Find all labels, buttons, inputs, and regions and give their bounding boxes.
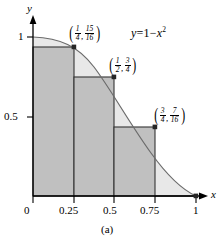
y-tick-label-1: 1 <box>18 31 24 42</box>
x-tick-label-0: 0 <box>24 205 30 216</box>
equation-minus: − <box>150 26 157 40</box>
fraction-denominator: 2 <box>115 65 121 74</box>
x-axis-label: x <box>211 189 216 200</box>
fraction-numerator: 7 <box>172 107 178 115</box>
equation-exponent: 2 <box>162 25 166 34</box>
riemann-sum-figure: y x 1 0.5 0 0.25 0.5 0.75 1 y=1−x2 ( 1 4… <box>0 0 221 248</box>
fraction-x-2: 1 2 <box>115 57 121 73</box>
right-paren-icon: ) <box>181 107 185 123</box>
curve-equation: y=1−x2 <box>131 26 166 39</box>
marked-point-4 <box>194 194 199 199</box>
fraction-y-1: 15 16 <box>85 25 95 41</box>
x-tick-label-0point75: 0.75 <box>140 205 159 216</box>
rectangle-1 <box>33 47 74 196</box>
x-tick-label-0point5: 0.5 <box>103 205 117 216</box>
coordinate-comma: , <box>121 64 124 73</box>
coordinate-pair-3: ( 3 4 , 7 16 ) <box>153 107 186 123</box>
coordinate-pair-1: ( 1 4 , 15 16 ) <box>68 25 101 41</box>
marked-point-1 <box>72 45 77 50</box>
right-paren-icon: ) <box>96 25 100 41</box>
fraction-y-3: 7 16 <box>170 107 180 123</box>
fraction-denominator: 4 <box>160 115 166 124</box>
fraction-numerator: 1 <box>75 25 81 33</box>
rectangle-3 <box>114 127 155 196</box>
coordinate-comma: , <box>81 32 84 41</box>
marked-point-3 <box>153 125 158 130</box>
left-paren-icon: ( <box>69 25 73 41</box>
coordinate-comma: , <box>166 114 169 123</box>
fraction-denominator: 16 <box>170 115 180 124</box>
fraction-y-2: 3 4 <box>125 57 131 73</box>
x-tick-label-0point25: 0.25 <box>59 205 78 216</box>
left-paren-icon: ( <box>154 107 158 123</box>
rectangle-2 <box>74 77 114 196</box>
figure-caption: (a) <box>101 224 113 235</box>
fraction-denominator: 4 <box>125 65 131 74</box>
x-tick-label-1: 1 <box>193 205 199 216</box>
x-axis-arrowhead <box>199 193 208 200</box>
fraction-numerator: 15 <box>85 25 95 33</box>
coordinate-pair-2: ( 1 2 , 3 4 ) <box>108 57 137 73</box>
left-paren-icon: ( <box>109 57 113 73</box>
marked-point-2 <box>112 75 117 80</box>
fraction-numerator: 1 <box>115 57 121 65</box>
fraction-x-3: 3 4 <box>160 107 166 123</box>
fraction-x-1: 1 4 <box>75 25 81 41</box>
point-label-2: ( 1 2 , 3 4 ) <box>108 57 137 73</box>
point-label-1: ( 1 4 , 15 16 ) <box>68 25 101 41</box>
equation-equals: = <box>137 26 144 40</box>
point-label-3: ( 3 4 , 7 16 ) <box>153 107 186 123</box>
right-paren-icon: ) <box>132 57 136 73</box>
y-tick-label-0point5: 0.5 <box>4 111 18 122</box>
fraction-denominator: 4 <box>75 33 81 42</box>
fraction-numerator: 3 <box>160 107 166 115</box>
y-axis-label: y <box>27 3 32 14</box>
fraction-numerator: 3 <box>125 57 131 65</box>
fraction-denominator: 16 <box>85 33 95 42</box>
y-axis-arrowhead <box>30 15 37 24</box>
